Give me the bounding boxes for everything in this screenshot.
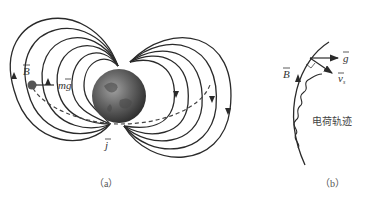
label-B: B: [23, 65, 30, 77]
diagram-canvas: B mg j （a） B g vs 电荷轨迹 （b）: [0, 0, 365, 201]
caption-b: （b）: [320, 178, 345, 189]
earth: [92, 69, 146, 123]
label-mg: mg: [58, 79, 72, 91]
label-B-b: B: [283, 68, 290, 80]
label-j: j: [103, 139, 108, 151]
charged-particle: [28, 81, 37, 90]
figure-a: B mg j （a）: [10, 18, 231, 189]
caption-a: （a）: [94, 178, 118, 189]
label-g: g: [343, 52, 349, 64]
trajectory-label: 电荷轨迹: [312, 115, 352, 127]
label-v: vs: [338, 72, 346, 85]
figure-b: B g vs 电荷轨迹 （b）: [283, 42, 352, 189]
